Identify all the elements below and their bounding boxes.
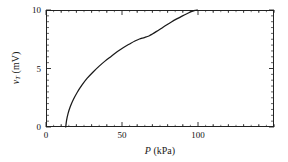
y-tick-label: 10: [22, 6, 41, 15]
y-axis-title-symbol: v: [10, 80, 21, 84]
x-axis-title: P (kPa): [145, 145, 175, 156]
x-axis-ticks: [46, 10, 274, 127]
x-axis-title-units: (kPa): [153, 145, 175, 156]
figure-container: 050100 0510 P (kPa) vT (mV): [0, 0, 288, 162]
y-axis-title-spacer: [10, 73, 21, 76]
y-tick-label: 0: [22, 123, 41, 132]
data-series-line: [66, 10, 197, 127]
y-tick-label: 5: [22, 64, 41, 73]
x-tick-label: 0: [44, 131, 49, 140]
x-tick-label: 50: [118, 131, 127, 140]
y-axis-ticks: [46, 10, 274, 127]
x-tick-label: 100: [191, 131, 205, 140]
y-axis-title-units: (mV): [10, 52, 21, 74]
y-axis-title-subscript: T: [14, 76, 22, 80]
y-axis-title: vT (mV): [10, 52, 22, 85]
